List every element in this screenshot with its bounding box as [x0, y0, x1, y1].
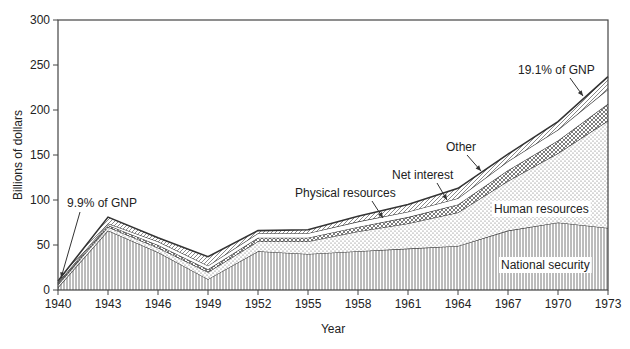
- label-national-security: National security: [501, 258, 590, 272]
- y-tick-label: 150: [30, 148, 50, 162]
- y-tick-label: 0: [43, 283, 50, 297]
- x-tick-label: 1940: [45, 297, 72, 311]
- x-axis-label: Year: [321, 322, 345, 336]
- x-tick-label: 1961: [395, 297, 422, 311]
- x-tick-label: 1970: [545, 297, 572, 311]
- y-tick-label: 250: [30, 58, 50, 72]
- x-tick-label: 1973: [595, 297, 622, 311]
- annotation-net-interest: Net interest: [392, 168, 454, 182]
- x-tick-label: 1967: [495, 297, 522, 311]
- y-tick-label: 300: [30, 13, 50, 27]
- area-chart: 0501001502002503001940194319461949195219…: [0, 0, 630, 349]
- x-tick-label: 1958: [345, 297, 372, 311]
- annotation-physical-resources: Physical resources: [295, 186, 396, 200]
- x-tick-label: 1964: [445, 297, 472, 311]
- annotation-19-1-gnp: 19.1% of GNP: [518, 63, 595, 77]
- chart-container: 0501001502002503001940194319461949195219…: [0, 0, 630, 349]
- y-axis-label: Billions of dollars: [11, 110, 25, 200]
- annotation-other: Other: [446, 140, 476, 154]
- x-tick-label: 1946: [145, 297, 172, 311]
- x-tick-label: 1943: [95, 297, 122, 311]
- y-tick-label: 50: [37, 238, 51, 252]
- y-tick-label: 100: [30, 193, 50, 207]
- label-human-resources: Human resources: [494, 202, 589, 216]
- x-tick-label: 1949: [195, 297, 222, 311]
- x-tick-label: 1955: [295, 297, 322, 311]
- annotation-9-9-gnp: 9.9% of GNP: [67, 196, 137, 210]
- x-tick-label: 1952: [245, 297, 272, 311]
- y-tick-label: 200: [30, 103, 50, 117]
